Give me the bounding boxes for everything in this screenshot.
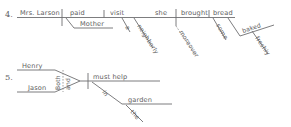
exercise-5-group: 5. Henry Jason Both and must help in gar… (5, 62, 172, 122)
word-verb2-4: brought (181, 9, 208, 17)
word-verb-4: paid (70, 9, 85, 17)
word-subject-jason-5: Jason (27, 84, 46, 92)
word-subject-henry-5: Henry (22, 62, 43, 70)
indirect-object-slant (66, 18, 74, 28)
word-correlative-both-5: Both (54, 75, 61, 90)
item-number-4: 4. (5, 9, 13, 19)
word-conjunctive-adverb-4: moreover (178, 29, 201, 59)
word-adverb-freshly-4: freshly (253, 35, 272, 58)
word-verb-5: must help (93, 73, 127, 81)
exercise-4-group: 4. Mrs. Larson paid Mother visit a neigh… (5, 9, 274, 58)
diagram-canvas: 4. Mrs. Larson paid Mother visit a neigh… (0, 0, 291, 127)
word-direct-object2-4: bread (213, 9, 233, 17)
word-subject2-4: she (155, 9, 167, 17)
adjective-baked-slant (228, 18, 240, 36)
word-subject-4: Mrs. Larson (20, 9, 60, 17)
word-article-a-4: a (124, 24, 132, 31)
word-adjective-neighborly-4: neighborly (135, 23, 160, 56)
word-direct-object-4: visit (110, 9, 125, 17)
word-adjective-some-4: some (215, 22, 230, 40)
item-number-5: 5. (5, 72, 13, 82)
word-object-garden-5: garden (128, 96, 152, 104)
worksheet-sheet: 4. Mrs. Larson paid Mother visit a neigh… (0, 0, 291, 127)
word-correlative-and-5: and (64, 78, 71, 90)
word-indirect-object-4: Mother (80, 20, 104, 28)
